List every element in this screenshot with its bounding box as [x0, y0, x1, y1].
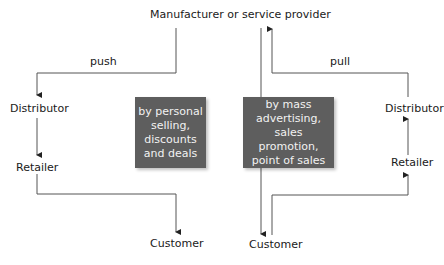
push-box-line: discounts: [138, 133, 203, 147]
push-customer-label: Customer: [150, 237, 203, 250]
push-retailer-label: Retailer: [16, 161, 58, 174]
pull-customer-label: Customer: [249, 238, 302, 251]
pull-up-arrow-to-retailer: [272, 175, 408, 235]
pull-label: pull: [330, 55, 350, 68]
pull-distributor-label: Distributor: [385, 102, 444, 115]
push-box-line: selling,: [138, 119, 203, 133]
push-label: push: [90, 55, 117, 68]
manufacturer-label: Manufacturer or service provider: [150, 8, 331, 21]
push-distributor-label: Distributor: [10, 102, 69, 115]
pull-box-line: by mass: [243, 98, 334, 112]
push-box-line: and deals: [138, 147, 203, 161]
push-arrow-to-customer: [37, 174, 176, 232]
pull-box-line: point of sales: [243, 154, 334, 168]
pull-box-line: sales promotion,: [243, 126, 334, 154]
pull-method-box: by mass advertising, sales promotion, po…: [243, 97, 334, 168]
connector-lines: [0, 0, 444, 265]
push-method-box: by personal selling, discounts and deals: [135, 97, 206, 168]
pull-retailer-label: Retailer: [391, 156, 433, 169]
pull-box-line: advertising,: [243, 112, 334, 126]
push-box-line: by personal: [138, 105, 203, 119]
